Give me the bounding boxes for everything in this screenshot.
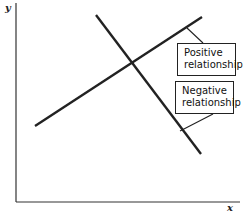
- x-axis-label: x: [227, 202, 233, 213]
- y-axis-label: y: [5, 2, 11, 13]
- negative-label-line2: relationship: [182, 97, 230, 109]
- positive-callout-leader: [187, 28, 203, 43]
- negative-label-line1: Negative: [182, 85, 230, 97]
- negative-callout-leader: [180, 114, 213, 131]
- negative-relationship-label: Negative relationship: [175, 81, 234, 114]
- positive-label-line2: relationship: [184, 59, 232, 71]
- positive-relationship-label: Positive relationship: [177, 43, 236, 76]
- positive-label-line1: Positive: [184, 47, 232, 59]
- relationship-diagram: y x Positive relationship Negative relat…: [0, 0, 244, 214]
